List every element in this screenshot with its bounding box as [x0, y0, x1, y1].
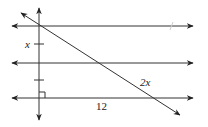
label-12: 12	[96, 100, 107, 112]
right-angle-marker	[39, 92, 45, 98]
label-2x: 2x	[140, 76, 151, 88]
label-x: x	[24, 38, 30, 50]
diagram-svg: x 2x 12	[0, 0, 208, 127]
geometry-diagram: x 2x 12	[0, 0, 208, 127]
